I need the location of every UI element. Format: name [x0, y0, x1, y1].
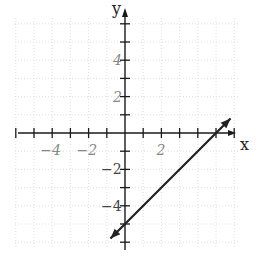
x-axis — [16, 128, 236, 138]
x-axis-label: x — [240, 135, 249, 154]
y-axis-arrow-icon — [122, 8, 128, 17]
coordinate-plane: −4−2242−2−4 x y — [0, 0, 262, 259]
x-tick-label: −4 — [40, 142, 61, 158]
y-tick-label: 4 — [112, 52, 122, 68]
x-tick-label: 2 — [155, 142, 165, 158]
series-line — [110, 118, 230, 238]
y-tick-label: −2 — [101, 161, 122, 177]
y-tick-label: 2 — [112, 89, 122, 105]
y-tick-label: −4 — [101, 198, 122, 214]
plotted-line — [110, 118, 230, 238]
x-tick-label: −2 — [77, 142, 98, 158]
y-axis-label: y — [111, 0, 121, 18]
